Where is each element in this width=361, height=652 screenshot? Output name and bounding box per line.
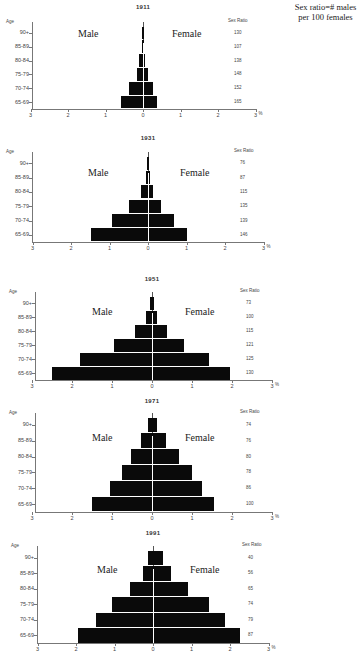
female-bar: [152, 367, 230, 380]
y-tick: [29, 235, 32, 236]
x-tick-label: 3: [30, 515, 33, 521]
bar-divider: [152, 313, 153, 380]
male-bar: [112, 214, 148, 227]
sex-ratio-value: 74: [248, 601, 253, 606]
percent-unit-label: %: [272, 645, 276, 650]
y-tick: [34, 589, 37, 590]
y-tick: [29, 74, 32, 75]
x-tick-label: 3: [29, 112, 32, 118]
y-axis: [37, 546, 38, 643]
female-bar: [143, 96, 157, 109]
y-axis: [32, 22, 33, 109]
female-label: Female: [180, 167, 209, 178]
x-axis: [35, 380, 272, 381]
percent-unit-label: %: [259, 111, 263, 116]
sex-ratio-value: 87: [248, 632, 253, 637]
y-tick: [29, 33, 32, 34]
sex-ratio-value: 73: [246, 300, 251, 305]
male-bar: [96, 613, 153, 628]
female-bar: [152, 481, 202, 496]
age-group-label: 80-84: [1, 57, 29, 63]
male-bar: [129, 200, 148, 213]
chart-title: 1911: [136, 4, 150, 10]
x-tick-label: 2: [70, 383, 73, 389]
female-bar: [152, 353, 209, 366]
sex-ratio-value: 121: [246, 342, 254, 347]
y-axis: [32, 152, 33, 242]
female-bar: [152, 325, 167, 338]
x-tick-label: 2: [216, 112, 219, 118]
sex-ratio-value: 87: [240, 175, 245, 180]
x-tick-label: 1: [110, 383, 113, 389]
male-bar: [131, 449, 152, 464]
y-tick: [32, 472, 35, 473]
male-bar: [129, 82, 143, 95]
x-tick-label: 3: [262, 245, 265, 251]
y-tick: [32, 425, 35, 426]
x-tick-label: 3: [36, 646, 39, 652]
percent-unit-label: %: [267, 244, 271, 249]
age-axis-header: Age: [6, 19, 14, 24]
sex-ratio-value: 86: [246, 485, 251, 490]
age-group-label: 80-84: [6, 585, 34, 591]
y-tick: [32, 504, 35, 505]
age-group-label: 90+: [1, 29, 29, 35]
x-tick-label: 0: [150, 383, 153, 389]
x-tick-label: 0: [141, 112, 144, 118]
y-tick: [32, 373, 35, 374]
sex-ratio-value: 148: [234, 71, 242, 76]
sex-ratio-value: 152: [234, 85, 242, 90]
female-label: Female: [185, 432, 214, 443]
sex-ratio-value: 56: [248, 570, 253, 575]
sex-ratio-value: 100: [246, 314, 254, 319]
age-group-label: 90+: [6, 554, 34, 560]
sex-ratio-value: 74: [246, 422, 251, 427]
x-tick-label: 1: [190, 646, 193, 652]
chart-title: 1931: [141, 135, 156, 141]
age-group-label: 70-74: [1, 217, 29, 223]
y-tick: [34, 573, 37, 574]
age-axis-header: Age: [6, 149, 14, 154]
female-bar: [153, 582, 188, 597]
bar-divider: [148, 173, 149, 242]
chart-title: 1991: [146, 530, 161, 536]
age-group-label: 75-79: [1, 203, 29, 209]
female-bar: [152, 497, 214, 512]
sex-ratio-header: Sex Ratio: [240, 409, 260, 414]
female-bar: [143, 27, 144, 40]
x-tick-label: 3: [270, 515, 273, 521]
x-tick-label: 3: [30, 383, 33, 389]
age-group-label: 85-89: [4, 437, 32, 443]
age-group-label: 70-74: [4, 485, 32, 491]
x-tick-label: 2: [66, 112, 69, 118]
x-tick-label: 1: [179, 112, 182, 118]
sex-ratio-value: 76: [246, 438, 251, 443]
sex-ratio-header: Sex Ratio: [234, 148, 254, 153]
y-tick: [34, 604, 37, 605]
female-bar: [152, 418, 157, 433]
female-label: Female: [172, 28, 201, 39]
male-label: Male: [78, 28, 99, 39]
age-group-label: 80-84: [4, 328, 32, 334]
age-group-label: 65-69: [6, 632, 34, 638]
sex-ratio-value: 125: [246, 356, 254, 361]
x-tick-label: 1: [113, 646, 116, 652]
x-tick-label: 3: [254, 112, 257, 118]
x-axis: [35, 512, 272, 513]
y-tick: [29, 163, 32, 164]
male-bar: [143, 566, 153, 581]
age-group-label: 75-79: [6, 601, 34, 607]
sex-ratio-value: 65: [248, 586, 253, 591]
male-bar: [141, 433, 152, 448]
sex-ratio-header: Sex Ratio: [240, 288, 260, 293]
sex-ratio-value: 115: [240, 189, 247, 194]
male-bar: [122, 465, 152, 480]
female-bar: [153, 597, 209, 612]
x-tick-label: 2: [70, 515, 73, 521]
age-group-label: 75-79: [1, 71, 29, 77]
male-label: Male: [92, 432, 113, 443]
female-bar: [153, 551, 163, 566]
sex-ratio-value: 115: [246, 328, 253, 333]
bar-divider: [152, 436, 153, 512]
male-bar: [141, 185, 148, 198]
